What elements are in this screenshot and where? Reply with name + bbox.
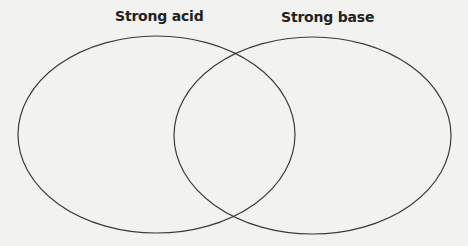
ellipse-strong-acid (18, 36, 295, 233)
venn-diagram (0, 0, 468, 246)
ellipse-strong-base (174, 37, 451, 234)
